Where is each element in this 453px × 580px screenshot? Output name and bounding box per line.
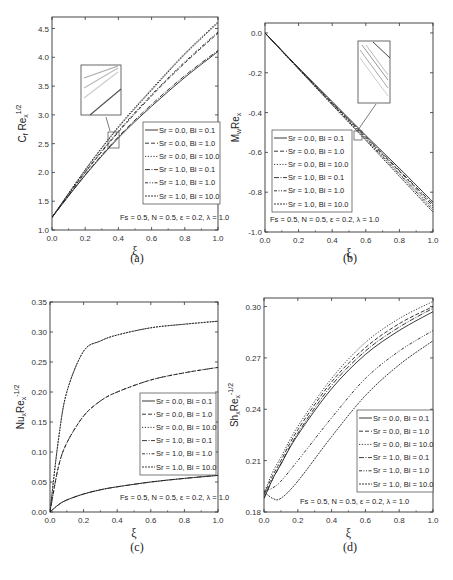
legend-entry: Sr = 0.0, Bi = 0.1 bbox=[156, 397, 212, 406]
x-tick-label: 0.0 bbox=[259, 236, 271, 245]
y-tick-label: 0.27 bbox=[245, 354, 261, 363]
legend-entry: Sr = 1.0, Bi = 1.0 bbox=[159, 178, 215, 187]
legend-entry: Sr = 1.0, Bi = 0.1 bbox=[159, 165, 215, 174]
x-tick-label: 1.0 bbox=[212, 234, 224, 243]
x-tick-label: 0.4 bbox=[326, 516, 338, 525]
legend-entry: Sr = 0.0, Bi = 0.1 bbox=[373, 414, 429, 423]
x-tick-label: 0.2 bbox=[293, 236, 305, 245]
legend-entry: Sr = 1.0, Bi = 10.0 bbox=[159, 192, 219, 201]
x-tick-label: 0.8 bbox=[179, 234, 191, 243]
x-tick-label: 0.4 bbox=[112, 516, 124, 525]
x-tick-label: 0.6 bbox=[360, 236, 372, 245]
y-tick-label: 0.00 bbox=[31, 508, 47, 517]
y-tick-label: 0.0 bbox=[251, 29, 263, 38]
y-tick-label: 0.30 bbox=[31, 328, 47, 337]
figure-canvas: 0.00.20.40.60.81.01.01.52.02.53.03.54.04… bbox=[0, 0, 453, 580]
panel-label: (b) bbox=[343, 251, 357, 265]
y-tick-label: 3.5 bbox=[38, 82, 50, 91]
y-tick-label: 0.15 bbox=[31, 418, 47, 427]
params-annotation: Fs = 0.5, N = 0.5, ε = 0.2, λ = 1.0 bbox=[120, 493, 229, 502]
legend-entry: Sr = 0.0, Bi = 1.0 bbox=[288, 147, 344, 156]
x-tick-label: 0.8 bbox=[394, 516, 406, 525]
legend-entry: Sr = 0.0, Bi = 10.0 bbox=[373, 440, 433, 449]
legend-entry: Sr = 0.0, Bi = 0.1 bbox=[159, 126, 215, 135]
x-tick-label: 1.0 bbox=[427, 236, 439, 245]
y-tick-label: 3.0 bbox=[38, 111, 50, 120]
legend-entry: Sr = 1.0, Bi = 1.0 bbox=[156, 449, 212, 458]
y-tick-label: 0.24 bbox=[245, 405, 261, 414]
x-axis-label: ξ bbox=[346, 526, 352, 540]
y-axis-label: NuxRex-1/2 bbox=[13, 385, 27, 430]
legend-entry: Sr = 1.0, Bi = 10.0 bbox=[373, 480, 433, 489]
x-tick-label: 0.2 bbox=[78, 516, 90, 525]
y-tick-label: 0.20 bbox=[31, 388, 47, 397]
y-axis-label: Cf Rex1/2 bbox=[15, 104, 29, 142]
y-axis-label: ShxRex-1/2 bbox=[227, 383, 241, 427]
y-tick-label: 2.0 bbox=[38, 168, 50, 177]
y-tick-label: 4.0 bbox=[38, 53, 50, 62]
legend-entry: Sr = 0.0, Bi = 0.1 bbox=[288, 134, 344, 143]
x-tick-label: 0.0 bbox=[46, 234, 58, 243]
x-tick-label: 0.4 bbox=[327, 236, 339, 245]
legend-entry: Sr = 1.0, Bi = 0.1 bbox=[156, 436, 212, 445]
y-tick-label: 0.05 bbox=[31, 478, 47, 487]
x-tick-label: 0.2 bbox=[292, 516, 304, 525]
panel-label: (d) bbox=[343, 540, 357, 554]
legend-entry: Sr = 0.0, Bi = 1.0 bbox=[159, 139, 215, 148]
panel-label: (c) bbox=[130, 540, 143, 554]
legend-entry: Sr = 0.0, Bi = 10.0 bbox=[159, 152, 219, 161]
params-annotation: Fs = 0.5, N = 0.5, ε = 0.2, λ = 1.0 bbox=[300, 497, 409, 506]
legend-entry: Sr = 0.0, Bi = 1.0 bbox=[156, 410, 212, 419]
y-tick-label: -0.6 bbox=[248, 148, 262, 157]
legend-entry: Sr = 0.0, Bi = 1.0 bbox=[373, 427, 429, 436]
y-tick-label: 0.35 bbox=[31, 298, 47, 307]
y-tick-label: 0.21 bbox=[245, 457, 261, 466]
y-tick-label: -0.2 bbox=[248, 69, 262, 78]
legend-entry: Sr = 0.0, Bi = 10.0 bbox=[156, 423, 216, 432]
x-tick-label: 0.6 bbox=[146, 234, 158, 243]
x-tick-label: 0.0 bbox=[44, 516, 56, 525]
legend-entry: Sr = 1.0, Bi = 0.1 bbox=[373, 453, 429, 462]
y-tick-label: 1.5 bbox=[38, 197, 50, 206]
chart-panel-a: 0.00.20.40.60.81.01.01.52.02.53.03.54.04… bbox=[15, 17, 229, 265]
legend-entry: Sr = 1.0, Bi = 1.0 bbox=[373, 466, 429, 475]
y-tick-label: -0.4 bbox=[248, 109, 262, 118]
y-tick-label: 0.10 bbox=[31, 448, 47, 457]
chart-panel-b: 0.00.20.40.60.81.0-1.0-0.8-0.6-0.4-0.20.… bbox=[230, 23, 439, 265]
x-tick-label: 1.0 bbox=[427, 516, 439, 525]
x-tick-label: 0.8 bbox=[179, 516, 191, 525]
y-tick-label: -1.0 bbox=[248, 228, 262, 237]
y-tick-label: 1.0 bbox=[38, 226, 50, 235]
params-annotation: Fs = 0.5, N = 0.5, ε = 0.2, λ = 1.0 bbox=[120, 213, 229, 222]
x-tick-label: 0.4 bbox=[113, 234, 125, 243]
chart-panel-c: 0.00.20.40.60.81.00.000.050.100.150.200.… bbox=[13, 298, 229, 554]
inset-zoom-b bbox=[354, 41, 390, 140]
chart-panel-d: 0.00.20.40.60.81.00.180.210.240.270.30Sr… bbox=[227, 298, 439, 554]
y-tick-label: 0.18 bbox=[245, 508, 261, 517]
legend-entry: Sr = 1.0, Bi = 10.0 bbox=[156, 463, 216, 472]
x-tick-label: 0.2 bbox=[80, 234, 92, 243]
y-axis-label: MwRex bbox=[230, 112, 242, 142]
legend-entry: Sr = 1.0, Bi = 0.1 bbox=[288, 173, 344, 182]
y-tick-label: -0.8 bbox=[248, 188, 262, 197]
x-axis-label: ξ bbox=[131, 526, 137, 540]
legend-entry: Sr = 1.0, Bi = 10.0 bbox=[288, 200, 348, 209]
params-annotation: Fs = 0.5, N = 0.5, ε = 0.2, λ = 1.0 bbox=[270, 215, 379, 224]
y-tick-label: 2.5 bbox=[38, 140, 50, 149]
legend-entry: Sr = 0.0, Bi = 10.0 bbox=[288, 160, 348, 169]
x-tick-label: 0.6 bbox=[145, 516, 157, 525]
x-tick-label: 1.0 bbox=[212, 516, 224, 525]
y-tick-label: 4.5 bbox=[38, 25, 50, 34]
x-tick-label: 0.8 bbox=[394, 236, 406, 245]
panel-label: (a) bbox=[130, 251, 143, 265]
y-tick-label: 0.30 bbox=[245, 303, 261, 312]
x-tick-label: 0.0 bbox=[258, 516, 270, 525]
x-tick-label: 0.6 bbox=[360, 516, 372, 525]
legend-entry: Sr = 1.0, Bi = 1.0 bbox=[288, 186, 344, 195]
y-tick-label: 0.25 bbox=[31, 358, 47, 367]
